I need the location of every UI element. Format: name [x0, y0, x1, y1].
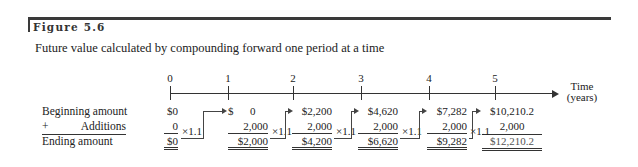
- tick-label-4: 4: [419, 72, 439, 84]
- beginning-1-value: $ 0: [228, 105, 256, 117]
- arrow-right-icon: [288, 108, 293, 114]
- tick-1: [228, 86, 229, 100]
- figure-left-rule: [28, 17, 30, 32]
- row-label-additions: + Additions: [42, 120, 126, 135]
- tick-5: [495, 86, 496, 100]
- ending-3: $6,620: [358, 135, 398, 150]
- tick-label-1: 1: [218, 72, 238, 84]
- tick-label-3: 3: [351, 72, 371, 84]
- axis-label-years: (years): [561, 92, 603, 103]
- connector-0-1: [181, 111, 204, 139]
- arrow-right-icon: [552, 90, 559, 98]
- connector-4-5: [469, 111, 473, 139]
- addition-2: 2,000: [292, 120, 332, 134]
- addition-0: 0: [164, 120, 178, 134]
- tick-0: [170, 86, 171, 100]
- beginning-0: $0: [164, 105, 178, 117]
- arrow-right-icon: [422, 108, 427, 114]
- figure-label: Figure 5.6: [33, 21, 106, 33]
- addition-1: 2,000: [228, 120, 268, 134]
- addition-4: 2,000: [427, 120, 467, 134]
- addition-3: 2,000: [358, 120, 398, 134]
- beginning-1: $ 0: [228, 105, 268, 117]
- figure-caption: Future value calculated by compounding f…: [35, 41, 384, 56]
- tick-label-0: 0: [160, 72, 180, 84]
- tick-label-5: 5: [485, 72, 505, 84]
- connector-1-2: [270, 111, 286, 139]
- ending-1: $2,000: [228, 135, 268, 150]
- arrow-right-icon: [354, 108, 359, 114]
- plus-sign: +: [42, 120, 49, 132]
- tick-2: [293, 86, 294, 100]
- connector-2-3: [334, 111, 352, 139]
- addition-5: 2,000: [482, 120, 542, 133]
- axis-label: Time (years): [561, 81, 603, 103]
- arrow-right-icon: [476, 108, 481, 114]
- beginning-3: $4,620: [358, 105, 398, 117]
- arrow-right-icon: [222, 108, 227, 114]
- tick-4: [429, 86, 430, 100]
- beginning-4: $7,282: [427, 105, 467, 117]
- connector-3-4: [400, 111, 420, 139]
- additions-label: Additions: [81, 120, 126, 132]
- tick-label-2: 2: [283, 72, 303, 84]
- ending-4: $9,282: [427, 135, 467, 150]
- ending-5: $12,210.2: [482, 134, 542, 151]
- tick-3: [361, 86, 362, 100]
- connector-0-1-top: [203, 111, 223, 112]
- figure-top-rule: [28, 17, 611, 20]
- beginning-5: $10,210.2: [482, 105, 542, 117]
- row-label-ending: Ending amount: [42, 135, 113, 147]
- ending-0: $0: [164, 135, 178, 150]
- row-label-beginning: Beginning amount: [42, 105, 127, 117]
- ending-2: $4,200: [292, 135, 332, 150]
- beginning-2: $2,200: [292, 105, 332, 117]
